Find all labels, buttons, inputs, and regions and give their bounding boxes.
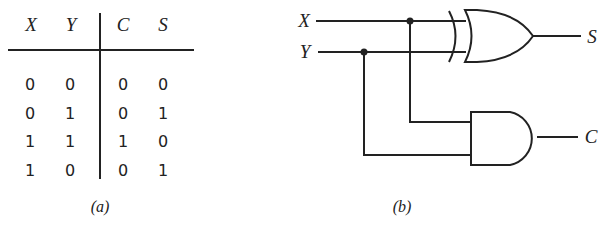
output-label-s: S xyxy=(587,26,597,48)
caption-b: (b) xyxy=(393,198,412,216)
and-gate-icon xyxy=(471,112,532,165)
output-label-c: C xyxy=(585,126,598,148)
junction-dot-x xyxy=(407,18,414,25)
input-label-x: X xyxy=(298,10,310,32)
half-adder-circuit xyxy=(0,0,605,228)
junction-dot-y xyxy=(361,49,368,56)
input-label-y: Y xyxy=(300,41,311,63)
wire-y-to-and xyxy=(364,52,471,155)
wire-x-to-and xyxy=(410,21,471,122)
xor-gate-icon xyxy=(449,10,533,62)
